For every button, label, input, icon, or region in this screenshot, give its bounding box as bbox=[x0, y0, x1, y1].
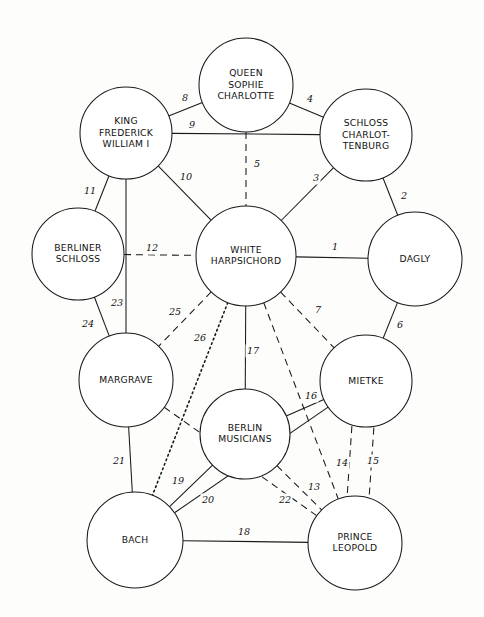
edge-label-13: 13 bbox=[308, 481, 320, 492]
edge-24 bbox=[94, 297, 109, 336]
edge-label-6: 6 bbox=[397, 319, 403, 330]
edge-21 bbox=[129, 427, 133, 492]
edge-label-20: 20 bbox=[201, 494, 214, 505]
edge-label-1: 1 bbox=[332, 241, 338, 252]
network-graph: QUEENSOPHIECHARLOTTEKINGFREDERICKWILLIAM… bbox=[0, 0, 484, 617]
node-circle-mietke[interactable] bbox=[320, 335, 412, 427]
node-circle-king-frederick-william-i[interactable] bbox=[80, 87, 172, 179]
edge-1 bbox=[296, 257, 368, 258]
edge-7 bbox=[281, 292, 335, 348]
node-dagly[interactable]: DAGLY bbox=[368, 212, 462, 306]
node-margrave[interactable]: MARGRAVE bbox=[79, 333, 173, 427]
edge-label-18: 18 bbox=[238, 526, 250, 537]
node-mietke[interactable]: MIETKE bbox=[320, 335, 412, 427]
node-queen-sophie-charlotte[interactable]: QUEENSOPHIECHARLOTTE bbox=[199, 38, 293, 132]
diagram-canvas: QUEENSOPHIECHARLOTTEKINGFREDERICKWILLIAM… bbox=[0, 0, 484, 617]
edge-label-23: 23 bbox=[110, 297, 123, 308]
edge-label-4: 4 bbox=[306, 93, 313, 104]
edge-label-21: 21 bbox=[112, 455, 125, 466]
node-circle-schloss-charlottenburg[interactable] bbox=[320, 89, 412, 181]
edge-label-19: 19 bbox=[172, 475, 184, 486]
node-circle-berlin-musicians[interactable] bbox=[200, 389, 290, 479]
node-prince-leopold[interactable]: PRINCELEOPOLD bbox=[308, 496, 402, 590]
edge-label-7: 7 bbox=[315, 304, 322, 315]
edge-label-8: 8 bbox=[182, 92, 188, 103]
node-bach[interactable]: BACH bbox=[87, 492, 183, 588]
node-circle-queen-sophie-charlotte[interactable] bbox=[199, 38, 293, 132]
node-circle-white-harpsichord[interactable] bbox=[196, 206, 296, 306]
node-schloss-charlottenburg[interactable]: SCHLOSSCHARLOT-TENBURG bbox=[320, 89, 412, 181]
edge-label-14: 14 bbox=[336, 457, 348, 468]
nodes-layer: QUEENSOPHIECHARLOTTEKINGFREDERICKWILLIAM… bbox=[32, 38, 462, 590]
edge-label-17: 17 bbox=[247, 345, 260, 356]
edge-label-2: 2 bbox=[400, 190, 407, 201]
node-circle-margrave[interactable] bbox=[79, 333, 173, 427]
edge-2 bbox=[383, 178, 398, 216]
node-berlin-musicians[interactable]: BERLINMUSICIANS bbox=[200, 389, 290, 479]
edge-label-26: 26 bbox=[193, 332, 206, 343]
edge-label-22: 22 bbox=[278, 494, 291, 505]
edge-3 bbox=[281, 168, 333, 221]
edge-label-24: 24 bbox=[81, 318, 94, 329]
node-king-frederick-william-i[interactable]: KINGFREDERICKWILLIAM I bbox=[80, 87, 172, 179]
edge-label-25: 25 bbox=[168, 306, 181, 317]
edge-label-10: 10 bbox=[180, 171, 192, 182]
edge-9 bbox=[172, 133, 320, 134]
edge-label-9: 9 bbox=[189, 119, 195, 130]
edge-6 bbox=[383, 303, 397, 339]
node-circle-bach[interactable] bbox=[87, 492, 183, 588]
node-circle-berliner-schloss[interactable] bbox=[32, 208, 124, 300]
edge-18 bbox=[183, 541, 308, 543]
edge-label-3: 3 bbox=[313, 172, 319, 183]
node-circle-prince-leopold[interactable] bbox=[308, 496, 402, 590]
node-white-harpsichord[interactable]: WHITEHARPSICHORD bbox=[196, 206, 296, 306]
edge-label-15: 15 bbox=[367, 455, 379, 466]
edge-label-5: 5 bbox=[254, 158, 260, 169]
node-berliner-schloss[interactable]: BERLINERSCHLOSS bbox=[32, 208, 124, 300]
node-circle-dagly[interactable] bbox=[368, 212, 462, 306]
edge-label-12: 12 bbox=[146, 242, 158, 253]
edge-label-16: 16 bbox=[305, 390, 317, 401]
edge-12 bbox=[124, 255, 196, 256]
edge-label-11: 11 bbox=[84, 185, 96, 196]
